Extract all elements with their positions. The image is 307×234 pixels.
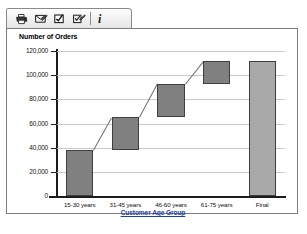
y-axis-title: Number of Orders — [19, 33, 77, 40]
waterfall-connector — [93, 117, 112, 150]
waterfall-connector — [139, 84, 158, 118]
x-tick-label: 15-30 years — [57, 201, 103, 208]
x-tick-label: 31-45 years — [103, 201, 149, 208]
gridline — [57, 51, 285, 52]
y-tick-label: 120,000 — [26, 47, 48, 54]
bar[interactable] — [66, 150, 93, 196]
chart-toolbar: i — [6, 8, 132, 29]
y-tick-label: 60,000 — [29, 120, 48, 127]
x-axis-title: Customer Age Group — [7, 209, 299, 216]
x-tick-label: 46-60 years — [148, 201, 194, 208]
copy-icon[interactable] — [69, 10, 88, 27]
email-icon[interactable] — [31, 10, 50, 27]
info-icon[interactable]: i — [95, 13, 104, 25]
x-tick-label: 61-75 years — [194, 201, 240, 208]
y-tick-mark — [51, 196, 57, 197]
y-tick-label: 40,000 — [29, 144, 48, 151]
toolbar-separator — [90, 12, 91, 25]
edit-check-icon[interactable] — [50, 10, 69, 27]
waterfall-connector — [185, 61, 204, 85]
chart-canvas: Number of Orders 020,00040,00060,00080,0… — [6, 28, 298, 214]
x-axis-line — [49, 196, 286, 198]
x-tick-label: Final — [239, 201, 285, 208]
y-tick-label: 20,000 — [29, 168, 48, 175]
y-tick-label: 0 — [45, 192, 48, 199]
bar[interactable] — [112, 117, 139, 150]
print-icon[interactable] — [12, 10, 31, 27]
y-tick-label: 80,000 — [29, 95, 48, 102]
y-tick-label: 100,000 — [26, 71, 48, 78]
bar[interactable] — [203, 61, 230, 84]
chart-window: i Number of Orders 020,00040,00060,00080… — [6, 8, 298, 214]
bar[interactable] — [157, 84, 184, 118]
plot-area — [57, 51, 285, 196]
bar[interactable] — [249, 61, 276, 196]
